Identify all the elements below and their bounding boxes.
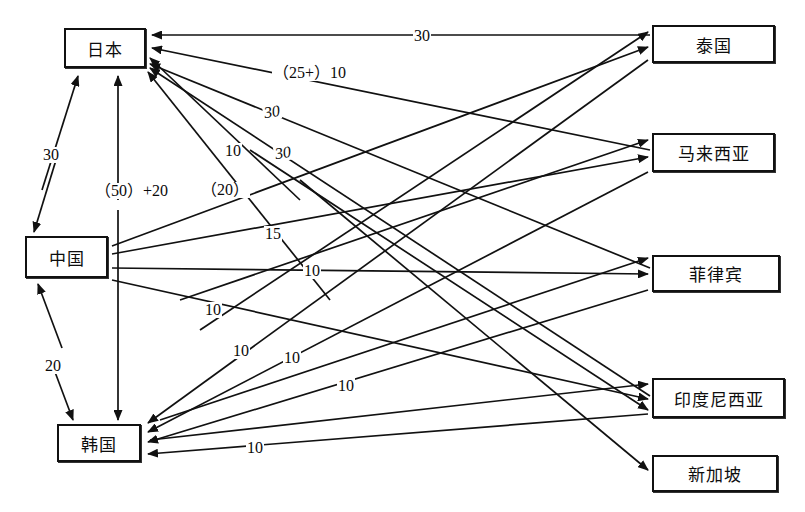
edge-label-30-japan-china: 30	[42, 147, 60, 163]
node-japan[interactable]: 日本	[64, 28, 146, 68]
node-japan-label: 日本	[87, 36, 123, 61]
node-philippines-label: 菲律宾	[689, 261, 743, 286]
edge-label-10-f: 10	[337, 378, 355, 394]
arrow-indonesia-to-japan	[150, 68, 650, 396]
edge-label-15: 15	[264, 226, 282, 242]
arrow-china-to-indonesia	[112, 280, 648, 399]
node-china[interactable]: 中国	[25, 236, 108, 278]
node-indonesia[interactable]: 印度尼西亚	[652, 378, 785, 418]
edge-label-10-b: 10	[303, 263, 321, 279]
node-china-label: 中国	[49, 245, 85, 270]
edge-label-30-b: 30	[273, 144, 294, 163]
node-indonesia-label: 印度尼西亚	[674, 386, 764, 411]
edge-label-10-a: 10	[224, 143, 242, 159]
arrow-china-to-thailand	[112, 47, 648, 246]
arrow-china-to-korea	[55, 372, 73, 420]
edge-label-20-china-korea: 20	[44, 358, 62, 374]
node-singapore-label: 新加坡	[688, 461, 742, 486]
edge-label-10-e: 10	[283, 350, 301, 366]
diagram-canvas: 日本 中国 韩国 泰国 马来西亚 菲律宾 印度尼西亚 新加坡 30 （25+）1…	[0, 0, 805, 512]
edge-label-10-d: 10	[232, 343, 250, 359]
edge-label-50plus20: （50）+20	[94, 183, 169, 199]
edge-label-10-g: 10	[246, 440, 264, 456]
arrow-malaysia-to-japan	[152, 48, 650, 150]
arrow-japan-to-thailand	[200, 32, 648, 330]
arrow-china-to-japan	[42, 76, 78, 190]
node-malaysia[interactable]: 马来西亚	[652, 133, 775, 172]
node-thailand-label: 泰国	[696, 32, 732, 57]
arrow-japan-to-china	[34, 160, 56, 232]
edge-label-20-paren: （20）	[200, 182, 250, 198]
edge-label-10-c: 10	[204, 302, 222, 318]
arrow-philippines-to-japan	[150, 64, 650, 268]
edge-label-30-a: 30	[262, 103, 283, 122]
edge-label-top-30: 30	[413, 28, 431, 44]
edge-label-25plus-10: （25+）10	[272, 65, 347, 81]
node-korea-label: 韩国	[81, 431, 117, 456]
arrow-thailand-to-korea	[148, 60, 648, 423]
node-philippines[interactable]: 菲律宾	[652, 255, 780, 292]
arrow-china-to-malaysia	[112, 157, 648, 254]
node-singapore[interactable]: 新加坡	[652, 455, 778, 492]
arrow-china-to-philippines	[112, 268, 648, 274]
node-malaysia-label: 马来西亚	[678, 140, 750, 165]
node-korea[interactable]: 韩国	[57, 424, 141, 462]
arrow-korea-to-china	[38, 284, 62, 348]
node-thailand[interactable]: 泰国	[652, 25, 775, 63]
